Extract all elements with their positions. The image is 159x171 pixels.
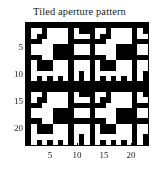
- x-tick-label-20: 20: [121, 150, 141, 160]
- aperture-pattern-heatmap: [26, 23, 148, 145]
- x-tick-mark-10: [77, 143, 78, 146]
- x-tick-mark-20: [131, 143, 132, 146]
- y-tick-mark-10: [25, 74, 28, 75]
- y-tick-label-20: 20: [7, 123, 23, 133]
- figure-container: Tiled aperture pattern 5 10 15 20 5 10 1…: [0, 0, 159, 171]
- y-tick-mark-20: [25, 128, 28, 129]
- y-tick-label-5: 5: [7, 42, 23, 52]
- x-tick-label-5: 5: [40, 150, 60, 160]
- x-tick-label-10: 10: [67, 150, 87, 160]
- y-tick-mark-5: [25, 47, 28, 48]
- plot-area: [25, 22, 149, 146]
- x-tick-mark-15: [104, 143, 105, 146]
- y-tick-label-10: 10: [7, 69, 23, 79]
- y-tick-label-15: 15: [7, 96, 23, 106]
- x-tick-label-15: 15: [94, 150, 114, 160]
- x-tick-mark-5: [50, 143, 51, 146]
- y-tick-mark-15: [25, 101, 28, 102]
- page-title: Tiled aperture pattern: [0, 6, 159, 17]
